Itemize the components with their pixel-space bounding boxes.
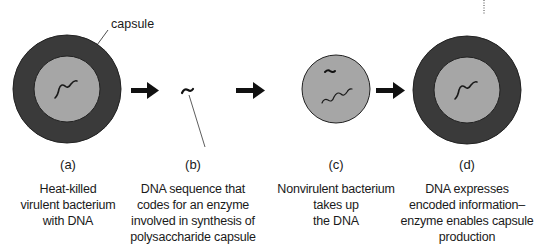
step-b-caption: DNA sequence that codes for an enzyme in… (130, 181, 256, 245)
caption-line: Heat-killed (20, 181, 115, 197)
caption-line: takes up (277, 197, 394, 213)
step-c-caption: Nonvirulent bacterium takes up the DNA (277, 181, 394, 229)
dna-fragment (182, 89, 205, 147)
arrow-right-icon (236, 82, 265, 99)
caption-line: DNA expresses (400, 181, 533, 197)
arrow-right-icon (376, 82, 405, 99)
step-d-caption: DNA expresses encoded information– enzym… (400, 181, 533, 245)
arrow-right-icon (131, 82, 159, 99)
caption-line: virulent bacterium (20, 197, 115, 213)
step-a-caption: Heat-killed virulent bacterium with DNA (20, 181, 115, 229)
caption-line: the DNA (277, 213, 394, 229)
step-a-letter: (a) (60, 157, 76, 172)
capsule-label: capsule (111, 17, 154, 31)
dna-fragment-icon (182, 89, 193, 93)
step-c-letter: (c) (328, 157, 343, 172)
capsule-pointer (97, 30, 108, 45)
step-b-letter: (b) (185, 157, 201, 172)
caption-line: Nonvirulent bacterium (277, 181, 394, 197)
caption-line: enzyme enables capsule (400, 213, 533, 229)
bacterium-a (13, 35, 121, 143)
caption-line: DNA sequence that (130, 181, 256, 197)
caption-line: polysaccharide capsule (130, 229, 256, 245)
dna-pointer (189, 95, 205, 147)
caption-line: codes for an enzyme (130, 197, 256, 213)
caption-line: production (400, 229, 533, 245)
step-d-letter: (d) (459, 157, 475, 172)
caption-line: with DNA (20, 213, 115, 229)
bacterium-c (302, 55, 370, 123)
caption-line: involved in synthesis of (130, 213, 256, 229)
caption-line: encoded information– (400, 197, 533, 213)
bacterium-d (413, 36, 521, 144)
